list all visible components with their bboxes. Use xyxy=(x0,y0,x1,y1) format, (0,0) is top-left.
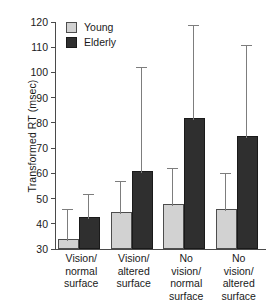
legend-item-elderly: Elderly xyxy=(66,36,116,48)
bar-group xyxy=(160,22,213,249)
y-axis-tick: 40 xyxy=(36,218,55,230)
y-axis-tick-label: 40 xyxy=(36,218,51,230)
x-axis-tick-label-line: Vision/ xyxy=(54,252,108,265)
x-axis-tick-label-line: Vision/ xyxy=(107,252,161,265)
legend-swatch-elderly xyxy=(66,37,77,48)
bar-young xyxy=(111,212,132,249)
error-bar-cap xyxy=(167,168,178,169)
error-bar-young xyxy=(67,209,68,242)
y-axis-tick-label: 100 xyxy=(30,66,51,78)
y-axis-tick: 110 xyxy=(31,41,55,53)
bar-young xyxy=(163,204,184,249)
error-bar-cap xyxy=(62,209,73,210)
y-axis-tick: 100 xyxy=(30,66,55,78)
y-axis-tick: 90 xyxy=(36,92,55,104)
x-axis-tick-label-line: surface xyxy=(212,290,266,303)
error-bar-cap xyxy=(136,67,147,68)
y-axis-tick-label: 90 xyxy=(36,92,51,104)
y-axis-tick-label: 50 xyxy=(36,193,51,205)
y-axis-tick-label: 80 xyxy=(36,117,51,129)
bar-group xyxy=(108,22,161,249)
x-axis-tick-label-line: altered xyxy=(212,277,266,290)
y-axis-tick-label: 120 xyxy=(30,16,51,28)
error-bar-cap xyxy=(115,181,126,182)
x-axis-tick-label-line: normal xyxy=(54,265,108,278)
y-axis-tick: 30 xyxy=(36,243,55,255)
error-bar-elderly xyxy=(88,194,89,219)
error-bar-elderly xyxy=(193,25,194,121)
bar-elderly xyxy=(184,118,205,249)
chart-legend: Young Elderly xyxy=(66,21,116,51)
error-bar-elderly xyxy=(141,67,142,173)
x-axis-tick-label-line: altered xyxy=(107,265,161,278)
x-axis-tick-label: Vision/normalsurface xyxy=(54,252,108,290)
chart-figure: Transformed RT (msec) 304050607080901001… xyxy=(0,0,280,308)
error-bar-elderly xyxy=(246,45,247,138)
x-axis-line xyxy=(55,249,266,250)
error-bar-cap xyxy=(241,45,252,46)
x-axis-tick-label-line: vision/ xyxy=(212,265,266,278)
x-axis-tick-label: Vision/alteredsurface xyxy=(107,252,161,290)
x-axis-tick-label-line: surface xyxy=(159,290,213,303)
x-axis-tick-labels: Vision/normalsurfaceVision/alteredsurfac… xyxy=(55,252,266,308)
x-axis-tick-label: Novision/normalsurface xyxy=(159,252,213,302)
y-axis-tick-label: 110 xyxy=(31,41,51,53)
bar-elderly xyxy=(237,136,258,249)
bar-elderly xyxy=(132,171,153,249)
y-axis-tick: 70 xyxy=(36,142,55,154)
legend-label-elderly: Elderly xyxy=(84,36,116,48)
legend-item-young: Young xyxy=(66,21,116,33)
y-axis-tick: 120 xyxy=(30,16,55,28)
y-axis-tick-label: 70 xyxy=(36,142,51,154)
x-axis-tick-label-line: vision/ xyxy=(159,265,213,278)
x-axis-tick-label-line: surface xyxy=(107,277,161,290)
x-axis-tick-label-line: No xyxy=(159,252,213,265)
legend-label-young: Young xyxy=(84,21,113,33)
bar-group xyxy=(55,22,108,249)
y-axis-tick-label: 30 xyxy=(36,243,51,255)
x-axis-tick-label-line: surface xyxy=(54,277,108,290)
y-axis-tick: 80 xyxy=(36,117,55,129)
bar-elderly xyxy=(79,217,100,249)
bar-young xyxy=(58,239,79,249)
error-bar-cap xyxy=(188,25,199,26)
x-axis-tick-label-line: normal xyxy=(159,277,213,290)
y-axis-tick-label: 60 xyxy=(36,167,51,179)
error-bar-young xyxy=(172,168,173,206)
plot-area: 30405060708090100110120 xyxy=(55,22,265,249)
bar-group xyxy=(213,22,266,249)
error-bar-cap xyxy=(220,173,231,174)
error-bar-young xyxy=(225,173,226,211)
legend-swatch-young xyxy=(66,22,77,33)
error-bar-cap xyxy=(83,194,94,195)
y-axis-tick: 50 xyxy=(36,193,55,205)
bar-young xyxy=(216,209,237,249)
x-axis-tick-label: Novision/alteredsurface xyxy=(212,252,266,302)
x-axis-tick-label-line: No xyxy=(212,252,266,265)
y-axis-tick: 60 xyxy=(36,167,55,179)
error-bar-young xyxy=(120,181,121,214)
